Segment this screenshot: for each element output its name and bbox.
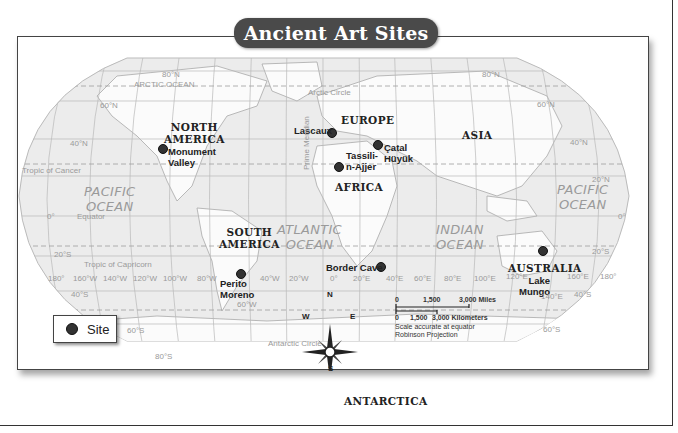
ocean-line: OCEAN [436,237,484,252]
legend-label: Site [87,322,109,337]
continent-label-antarctica: ANTARCTICA [344,395,427,407]
lat-label: 40°N [570,138,588,147]
label-prime-meridian: Prime Meridian [302,116,311,170]
site-label-tassili: Tassili- n-Ajjer [346,150,378,172]
lon-label: 120°W [133,274,157,283]
lat-label: 60°S [543,325,560,334]
scale-miles-1500: 1,500 [423,296,441,305]
lat-label: 40°N [70,139,88,148]
lon-label: 160°E [567,272,589,281]
lat-label: 60°N [100,101,118,110]
ocean-label-atlantic: ATLANTIC OCEAN [277,222,342,252]
lon-label: 140°E [541,292,563,301]
continent-label-africa: AFRICA [335,181,383,193]
lat-label: 40°S [71,290,88,299]
scale-miles-3000: 3,000 Miles [459,296,496,305]
continent-label-europe: EUROPE [341,114,394,126]
scale-note-projection: Robinson Projection [395,331,458,340]
lon-label: 20°E [353,274,370,283]
lat-label: 40°S [574,290,591,299]
site-dot-catal-huyuk [374,141,383,150]
continent-label-north-america: NORTH AMERICA [164,121,225,145]
lat-label: 60°S [127,326,144,335]
site-dot-tassili [335,163,344,172]
ocean-label-pacific-west: PACIFIC OCEAN [84,184,136,214]
lon-label: 80°E [444,274,461,283]
site-dot-monument-valley [159,145,168,154]
lat-label: 0° [47,212,55,221]
site-line: Hüyük [384,153,413,164]
ocean-line: OCEAN [277,237,342,252]
ocean-label-arctic: ARCTIC OCEAN [134,80,194,89]
lon-label: 160°W [73,274,97,283]
compass-south: S [328,364,333,373]
site-label-border-cave: Border Cave [326,262,383,273]
lon-label: 120°E [506,272,528,281]
lat-label: 80°N [162,70,180,79]
label-antarctic-circle: Antarctic Circle [268,339,322,348]
scale-km-1500: 1,500 [410,314,428,323]
continent-line: NORTH [164,121,225,133]
continent-line: AMERICA [164,133,225,145]
lat-label: 60°N [537,100,555,109]
site-line: Moreno [220,289,254,300]
ocean-line: INDIAN [436,222,484,237]
site-line: Tassili- [346,150,378,161]
lat-label: 80°S [155,352,172,361]
compass-north: N [327,290,333,299]
ocean-line: ATLANTIC [277,222,342,237]
continent-line: SOUTH [219,226,280,238]
continent-label-south-america: SOUTH AMERICA [219,226,280,250]
lat-label: 20°S [592,247,609,256]
lon-label: 20°W [289,274,309,283]
ocean-line: OCEAN [557,197,609,212]
site-label-monument-valley: Monument Valley [168,146,216,168]
site-label-lascaux: Lascaux [294,125,332,136]
lon-label: 140°W [103,274,127,283]
site-line: Çatal [384,142,413,153]
site-line: Valley [168,157,216,168]
label-equator: Equator [77,212,105,221]
lat-label: 0° [618,212,626,221]
lon-label: 80°W [197,274,217,283]
ocean-label-pacific-east: PACIFIC OCEAN [557,182,609,212]
lon-label: 0° [330,274,338,283]
ocean-line: PACIFIC [84,184,136,199]
site-line: Monument [168,146,216,157]
continent-label-asia: ASIA [462,129,492,141]
lon-label: 60°E [414,274,431,283]
label-arctic-circle: Arctic Circle [308,88,351,97]
map-title: Ancient Art Sites [234,18,438,48]
lon-label: 180° [600,272,617,281]
site-line: Perito [220,278,254,289]
site-label-perito-moreno: Perito Moreno [220,278,254,300]
map-legend: Site [53,315,117,343]
continent-line: AMERICA [219,238,280,250]
scale-miles-0: 0 [395,296,399,305]
compass-west: W [302,312,310,321]
lat-label: 80°N [482,70,500,79]
ocean-label-indian: INDIAN OCEAN [436,222,484,252]
label-tropic-cancer: Tropic of Cancer [22,166,81,175]
site-label-catal-huyuk: Çatal Hüyük [384,142,413,164]
lon-label: 100°W [163,274,187,283]
site-dot-icon [66,323,78,335]
lon-label: 60°W [237,300,257,309]
ocean-line: PACIFIC [557,182,609,197]
lat-label: 20°N [592,175,610,184]
scale-km-0: 0 [395,314,399,323]
lon-label: 180° [48,274,65,283]
lon-label: 40°W [260,274,280,283]
label-tropic-capricorn: Tropic of Capricorn [84,260,152,269]
compass-east: E [350,312,355,321]
scale-km-3000: 3,000 Kilometers [432,314,488,323]
lat-label: 20°S [54,250,71,259]
lon-label: 100°E [474,274,496,283]
lon-label: 40°E [386,274,403,283]
site-line: n-Ajjer [346,161,378,172]
site-dot-lake-mungo [539,247,548,256]
